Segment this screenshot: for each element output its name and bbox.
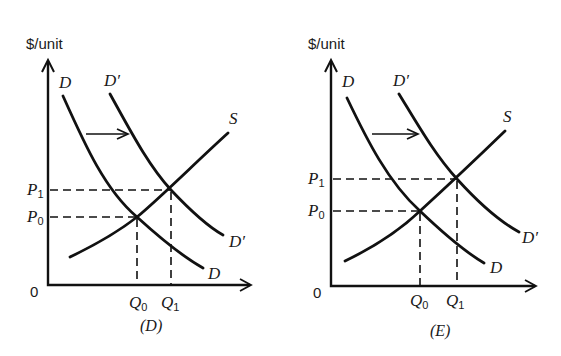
label-p0: P0: [307, 201, 325, 221]
supply-curve-s: [345, 131, 505, 261]
label-d-prime-bottom: D′: [228, 232, 245, 251]
y-axis-title: $/unit: [26, 35, 64, 52]
label-p1: P1: [26, 180, 44, 200]
label-s: S: [503, 107, 512, 126]
origin-label: 0: [30, 283, 38, 300]
demand-curve-d: [63, 96, 203, 268]
label-p0: P0: [26, 207, 44, 227]
label-q0: Q0: [410, 291, 428, 311]
label-q1: Q1: [161, 293, 179, 313]
supply-curve-s: [70, 133, 228, 257]
panel-e: $/unit D D′ S D′ D P1 P0 0 Q0 Q1 (E): [307, 35, 538, 340]
label-d-prime-bottom: D′: [521, 228, 538, 247]
label-d-bottom: D: [489, 258, 503, 277]
label-d-prime-top: D′: [103, 71, 120, 90]
label-d-top: D: [58, 73, 72, 92]
y-axis-title: $/unit: [308, 35, 346, 52]
caption-d: (D): [140, 317, 162, 335]
label-d-bottom: D: [207, 264, 221, 283]
origin-label: 0: [313, 284, 321, 301]
panel-d: $/unit D D′ S D′ D P1 P0 0 Q0 Q1 (D): [26, 35, 251, 335]
supply-demand-figure: $/unit D D′ S D′ D P1 P0 0 Q0 Q1 (D) $/u…: [0, 0, 561, 356]
label-q1: Q1: [446, 291, 464, 311]
label-q0: Q0: [129, 293, 147, 313]
label-d-top: D: [341, 72, 355, 91]
label-s: S: [229, 109, 238, 128]
label-p1: P1: [307, 169, 325, 189]
label-d-prime-top: D′: [392, 71, 409, 90]
demand-curve-d-prime: [110, 94, 223, 235]
caption-e: (E): [430, 322, 450, 340]
